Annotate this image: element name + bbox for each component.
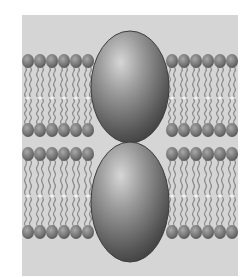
lipid-head	[22, 147, 34, 161]
lipid-head	[58, 147, 70, 161]
lipid-head	[82, 147, 94, 161]
lipid-head	[22, 123, 34, 137]
lipid-head	[46, 225, 58, 239]
lipid-head	[190, 123, 202, 137]
lipid-head	[178, 225, 190, 239]
lipid-head	[166, 225, 178, 239]
midline-dot	[62, 194, 65, 197]
midline-dot	[38, 194, 41, 197]
midline-dot	[38, 96, 41, 99]
lipid-head	[82, 123, 94, 137]
midline-dot	[50, 194, 53, 197]
midline-dot	[170, 194, 173, 197]
lipid-head	[190, 147, 202, 161]
lipid-head	[22, 225, 34, 239]
midline-dot	[230, 96, 233, 99]
midline-dot	[206, 96, 209, 99]
midline-dot	[182, 96, 185, 99]
lipid-head	[70, 225, 82, 239]
lipid-head	[214, 123, 226, 137]
lipid-head	[214, 225, 226, 239]
lipid-head	[46, 54, 58, 68]
lipid-head	[34, 123, 46, 137]
lipid-head	[202, 54, 214, 68]
lipid-head	[166, 123, 178, 137]
lipid-head	[58, 54, 70, 68]
midline-dot	[86, 96, 89, 99]
lipid-head	[34, 225, 46, 239]
lipid-head	[58, 225, 70, 239]
lipid-head	[226, 225, 238, 239]
lipid-head	[214, 147, 226, 161]
lipid-head	[226, 54, 238, 68]
lipid-head	[202, 225, 214, 239]
midline-dot	[26, 194, 29, 197]
midline-dot	[230, 194, 233, 197]
lipid-head	[34, 147, 46, 161]
midline-dot	[74, 96, 77, 99]
lipid-head	[226, 147, 238, 161]
midline-dot	[194, 96, 197, 99]
lower-protein	[91, 142, 169, 262]
midline-dot	[50, 96, 53, 99]
lipid-head	[22, 54, 34, 68]
lipid-head	[190, 54, 202, 68]
lipid-head	[190, 225, 202, 239]
lipid-head	[82, 225, 94, 239]
midline-dot	[170, 96, 173, 99]
midline-dot	[206, 194, 209, 197]
lipid-head	[214, 54, 226, 68]
midline-dot	[62, 96, 65, 99]
midline-dot	[218, 96, 221, 99]
midline-dot	[194, 194, 197, 197]
membrane-diagram	[0, 0, 245, 277]
midline-dot	[86, 194, 89, 197]
lipid-head	[178, 54, 190, 68]
lipid-head	[34, 54, 46, 68]
lipid-head	[70, 147, 82, 161]
lipid-head	[226, 123, 238, 137]
midline-dot	[182, 194, 185, 197]
midline-dot	[218, 194, 221, 197]
lipid-head	[202, 147, 214, 161]
upper-protein	[91, 31, 169, 143]
lipid-head	[202, 123, 214, 137]
lipid-head	[70, 54, 82, 68]
lipid-head	[46, 147, 58, 161]
lipid-head	[178, 123, 190, 137]
midline-dot	[74, 194, 77, 197]
lipid-head	[46, 123, 58, 137]
midline-dot	[26, 96, 29, 99]
lipid-head	[178, 147, 190, 161]
lipid-head	[58, 123, 70, 137]
lipid-head	[70, 123, 82, 137]
lipid-head	[166, 54, 178, 68]
lipid-head	[166, 147, 178, 161]
lipid-head	[82, 54, 94, 68]
